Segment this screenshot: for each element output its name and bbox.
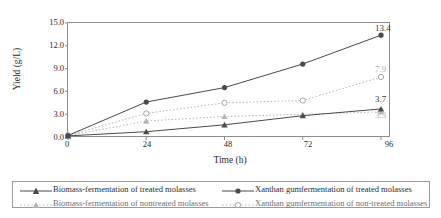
legend-item-biomass-treated: Biomass-fermentation of treated molasses [19,183,219,196]
chart-legend: Biomass-fermentation of treated molasses… [12,181,430,208]
value-label-biomass-nontreated: 3.3 [375,110,386,120]
legend-marker-circle-solid-icon [221,183,255,195]
legend-marker-circle-open-dotted-icon [221,197,255,209]
series-marker [378,74,383,79]
series-marker [222,100,227,105]
series-marker [144,111,149,116]
legend-item-xanthan-treated: Xanthan gumfermentation of treated molas… [221,183,427,196]
legend-label-biomass-treated: Biomass-fermentation of treated molasses [53,184,196,194]
value-label-biomass-treated: 3.7 [375,94,386,104]
series-marker [378,33,383,38]
legend-label-biomass-nontreated: Biomass-fermentation of nontreated molas… [53,198,209,208]
series-marker [300,61,305,66]
chart-plot-area: 0.0 3.0 6.0 9.0 12.0 15.0 0 24 48 72 96 … [0,0,441,175]
value-label-xanthan-treated: 13.4 [375,23,391,33]
legend-column-right: Xanthan gumfermentation of treated molas… [221,182,427,209]
legend-item-biomass-nontreated: Biomass-fermentation of nontreated molas… [19,196,219,209]
legend-marker-triangle-dotted-icon [19,197,53,209]
legend-label-xanthan-nontreated: Xanthan gumfermentation of non-treated m… [255,198,427,208]
series-marker [222,85,227,90]
series-marker [221,113,227,119]
legend-item-xanthan-nontreated: Xanthan gumfermentation of non-treated m… [221,196,427,209]
legend-label-xanthan-treated: Xanthan gumfermentation of treated molas… [255,184,412,194]
series-marker [300,98,305,103]
legend-marker-triangle-solid-icon [19,183,53,195]
series-marker [65,133,70,138]
legend-column-left: Biomass-fermentation of treated molasses… [19,182,219,209]
value-label-xanthan-nontreated: 7.9 [375,64,386,74]
series-marker [144,99,149,104]
chart-figure: 0.0 3.0 6.0 9.0 12.0 15.0 0 24 48 72 96 … [0,0,441,218]
